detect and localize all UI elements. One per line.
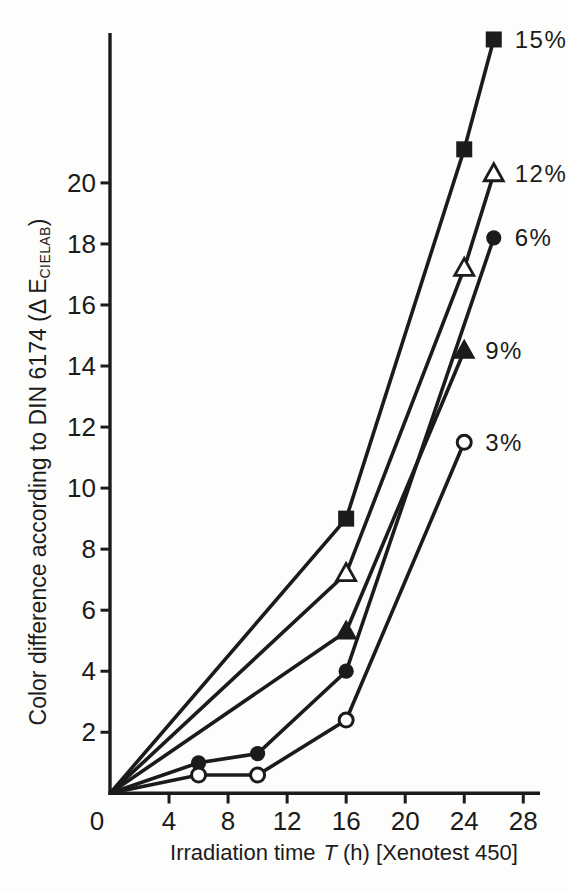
x-tick-label: 4 <box>162 806 176 836</box>
y-axis-title: Color difference according to DIN 6174 (… <box>25 219 53 726</box>
series-label-6pct: 6% <box>515 224 553 251</box>
marker-filled-square <box>486 31 502 47</box>
series-label-15pct: 15% <box>515 26 568 53</box>
marker-filled-circle <box>250 746 265 761</box>
marker-open-triangle <box>484 164 503 181</box>
marker-open-triangle <box>455 258 474 275</box>
marker-filled-triangle <box>337 622 356 639</box>
marker-filled-circle <box>339 664 354 679</box>
x-axis-title-text: Irradiation time <box>170 840 316 865</box>
y-tick-label: 12 <box>67 412 96 442</box>
x-tick-label: 24 <box>450 806 479 836</box>
y-tick-label: 2 <box>82 717 96 747</box>
y-tick-label: 6 <box>82 595 96 625</box>
series-line-12pct <box>110 174 494 794</box>
series-label-3pct: 3% <box>485 429 523 456</box>
series-label-12pct: 12% <box>515 160 568 187</box>
y-axis-title-suffix: ) <box>25 219 51 227</box>
y-tick-label: 16 <box>67 290 96 320</box>
marker-open-circle <box>192 768 206 782</box>
x-tick-label: 0 <box>90 806 104 836</box>
line-chart-figure: 2468101214161820048121620242815%12%6%9%3… <box>0 0 568 893</box>
y-axis-title-text: Color difference according to DIN 6174 (… <box>25 278 51 725</box>
marker-filled-circle <box>486 230 501 245</box>
marker-open-circle <box>339 713 353 727</box>
x-axis-title: Irradiation timeT(h) [Xenotest 450] <box>170 840 518 866</box>
series-label-9pct: 9% <box>485 337 523 364</box>
x-tick-label: 12 <box>273 806 302 836</box>
series-line-6pct <box>110 238 494 793</box>
x-axis-title-symbol: T <box>324 840 337 865</box>
y-tick-label: 4 <box>82 656 96 686</box>
x-tick-label: 20 <box>391 806 420 836</box>
y-tick-label: 18 <box>67 229 96 259</box>
y-tick-label: 10 <box>67 473 96 503</box>
y-axis-title-subscript: CIELAB <box>37 226 53 278</box>
chart-canvas: 2468101214161820048121620242815%12%6%9%3… <box>0 0 568 893</box>
x-tick-label: 28 <box>509 806 538 836</box>
marker-open-triangle <box>337 564 356 581</box>
marker-open-circle <box>251 768 265 782</box>
y-tick-label: 14 <box>67 351 96 381</box>
y-tick-label: 20 <box>67 168 96 198</box>
x-tick-label: 16 <box>332 806 361 836</box>
marker-open-circle <box>457 435 471 449</box>
x-tick-label: 8 <box>221 806 235 836</box>
marker-filled-square <box>456 141 472 157</box>
x-axis-title-suffix: (h) [Xenotest 450] <box>343 840 518 865</box>
series-line-3pct <box>110 442 464 793</box>
y-tick-label: 8 <box>82 534 96 564</box>
marker-filled-square <box>338 511 354 527</box>
